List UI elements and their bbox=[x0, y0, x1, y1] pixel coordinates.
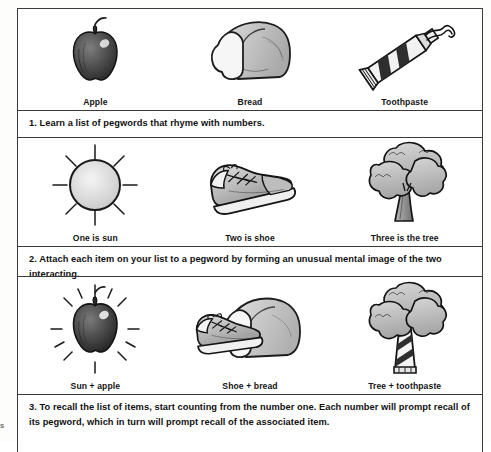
figure-cell-bread: Bread bbox=[173, 11, 328, 110]
figure-cell-sun: One is sun bbox=[18, 139, 173, 246]
items-row: Apple bbox=[18, 11, 482, 110]
caption-toothpaste: Toothpaste bbox=[381, 97, 428, 107]
divider-rule-1 bbox=[18, 110, 482, 111]
figure-cell-shoe-bread: Shoe + bread bbox=[173, 278, 328, 394]
caption-apple: Apple bbox=[83, 97, 107, 107]
caption-tree-plus-toothpaste: Tree + toothpaste bbox=[368, 381, 441, 391]
caption-one-is-sun: One is sun bbox=[73, 233, 118, 243]
caption-sun-plus-apple: Sun + apple bbox=[71, 381, 121, 391]
instruction-step-1: 1. Learn a list of pegwords that rhyme w… bbox=[29, 116, 471, 131]
sun-icon bbox=[18, 139, 173, 231]
combined-images-row: Sun + apple bbox=[18, 278, 482, 394]
instruction-step-3: 3. To recall the list of items, start co… bbox=[29, 400, 471, 429]
divider-rule-5 bbox=[18, 394, 482, 395]
cut-off-text-fragment: s bbox=[0, 421, 14, 430]
shoe-icon bbox=[173, 139, 328, 231]
figure-cell-shoe: Two is shoe bbox=[173, 139, 328, 246]
caption-shoe-plus-bread: Shoe + bread bbox=[222, 381, 277, 391]
figure-cell-apple: Apple bbox=[18, 11, 173, 110]
pegwords-row: One is sun bbox=[18, 139, 482, 246]
shoe-bread-icon bbox=[173, 278, 328, 379]
tree-toothpaste-icon bbox=[327, 278, 482, 379]
caption-two-is-shoe: Two is shoe bbox=[225, 233, 275, 243]
caption-bread: Bread bbox=[238, 97, 263, 107]
divider-rule-4 bbox=[18, 276, 482, 277]
figure-border-box: Apple bbox=[17, 8, 483, 452]
tree-icon bbox=[327, 139, 482, 231]
toothpaste-tube-icon bbox=[327, 11, 482, 95]
figure-cell-tree: Three is the tree bbox=[327, 139, 482, 246]
bread-loaf-icon bbox=[173, 11, 328, 95]
divider-rule-3 bbox=[18, 246, 482, 247]
figure-cell-tree-toothpaste: Tree + toothpaste bbox=[327, 278, 482, 394]
figure-cell-toothpaste: Toothpaste bbox=[327, 11, 482, 110]
divider-rule-2 bbox=[18, 137, 482, 138]
caption-three-is-the-tree: Three is the tree bbox=[371, 233, 439, 243]
sun-apple-icon bbox=[18, 278, 173, 379]
figure-cell-sun-apple: Sun + apple bbox=[18, 278, 173, 394]
apple-icon bbox=[18, 11, 173, 95]
